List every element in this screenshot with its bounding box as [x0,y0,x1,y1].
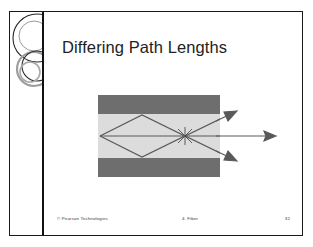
exit-arrow-lower-icon [224,151,237,161]
fiber-cladding-upper [98,95,220,114]
exit-rays-group [216,111,276,161]
slide-decoration-band [10,12,44,235]
fiber-cladding-lower [98,158,220,177]
slide-title: Differing Path Lengths [62,38,227,57]
vertical-rule-thick [42,12,44,235]
footer-copyright: © Pearson Technologies [57,216,108,221]
fiber-diagram-svg [98,95,286,177]
footer-section-label: 4. Fiber [182,216,198,221]
exit-arrow-axial-icon [264,131,276,141]
slide-canvas: Differing Path Lengths [9,11,303,236]
slide-footer: © Pearson Technologies 4. Fiber 32 [10,216,302,228]
exit-arrow-upper-icon [224,111,237,121]
footer-page-number: 32 [285,216,290,221]
fiber-path-diagram [98,95,286,177]
overlapping-circles-ornament-icon [10,12,44,102]
